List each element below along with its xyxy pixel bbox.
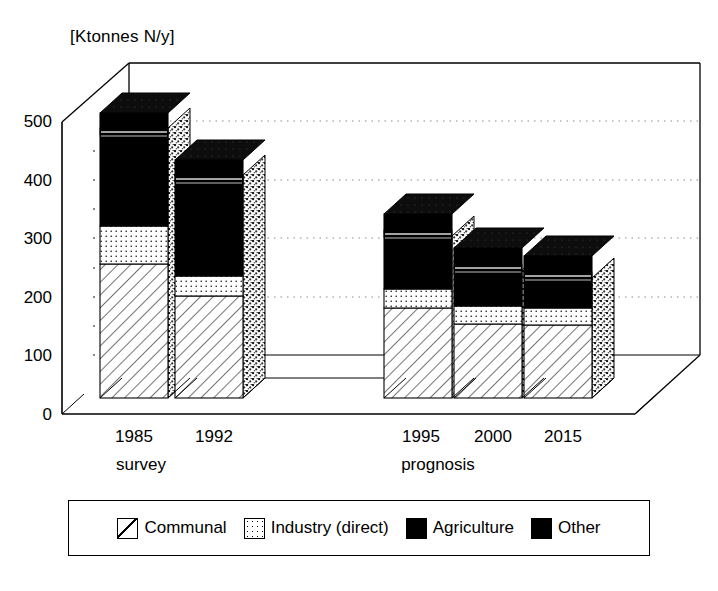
x-tick-1995: 1995 <box>383 427 459 446</box>
legend-label-agriculture: Agriculture <box>433 518 514 538</box>
plot-area <box>0 0 718 480</box>
dotted-swatch-icon <box>244 518 265 539</box>
chart-svg <box>0 0 718 480</box>
x-tick-1992: 1992 <box>176 427 252 446</box>
y-tick-200: 200 <box>6 289 52 306</box>
y-tick-500: 500 <box>6 113 52 130</box>
chart-figure: [Ktonnes N/y] <box>0 0 718 591</box>
chart-legend: Communal Industry (direct) Agriculture O… <box>68 500 650 556</box>
black-swatch-icon <box>531 518 552 539</box>
x-tick-1985: 1985 <box>96 427 172 446</box>
legend-label-industry: Industry (direct) <box>271 518 389 538</box>
bar-2015 <box>524 236 614 398</box>
legend-item-agriculture: Agriculture <box>406 518 514 539</box>
y-tick-100: 100 <box>6 347 52 364</box>
x-group-prognosis: prognosis <box>383 455 493 474</box>
y-tick-0: 0 <box>6 406 52 423</box>
legend-label-other: Other <box>558 518 601 538</box>
legend-item-communal: Communal <box>117 518 226 539</box>
x-tick-2015: 2015 <box>525 427 601 446</box>
bar-1992 <box>175 140 265 398</box>
y-tick-300: 300 <box>6 230 52 247</box>
axis-depth-ticks <box>93 150 95 356</box>
black-swatch-icon <box>406 518 427 539</box>
legend-item-other: Other <box>531 518 601 539</box>
x-tick-2000: 2000 <box>455 427 531 446</box>
y-tick-400: 400 <box>6 172 52 189</box>
x-group-survey: survey <box>96 455 186 474</box>
hatch-swatch-icon <box>117 518 138 539</box>
legend-item-industry: Industry (direct) <box>244 518 389 539</box>
legend-label-communal: Communal <box>144 518 226 538</box>
